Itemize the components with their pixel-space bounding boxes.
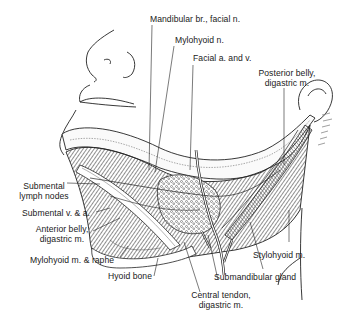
label-line: digastric m. <box>186 301 256 311</box>
label-submandibular-gland: Submandibular gland <box>214 273 296 283</box>
label-mandibular-branch-facial-nerve: Mandibular br., facial n. <box>150 15 240 25</box>
label-mylohyoid-nerve: Mylohyoid n. <box>175 36 224 46</box>
label-submental-lymph-nodes: Submental lymph nodes <box>17 182 71 201</box>
label-anterior-belly-digastric: Anterior belly, digastric m. <box>32 225 92 244</box>
label-posterior-belly-digastric: Posterior belly, digastric m. <box>248 69 326 88</box>
label-line: lymph nodes <box>17 192 71 202</box>
label-submental-vessels: Submental v. & a. <box>22 209 90 219</box>
neck-shading <box>318 113 332 145</box>
label-mylohyoid-raphe: Mylohyoid m. & raphe <box>30 256 114 266</box>
label-central-tendon-digastric: Central tendon, digastric m. <box>186 291 256 310</box>
label-line: digastric m. <box>32 235 92 245</box>
label-hyoid-bone: Hyoid bone <box>108 272 152 282</box>
label-facial-artery-vein: Facial a. and v. <box>193 54 251 64</box>
label-line: digastric m. <box>248 79 326 89</box>
label-stylohyoid-muscle: Stylohyoid m. <box>253 251 305 261</box>
